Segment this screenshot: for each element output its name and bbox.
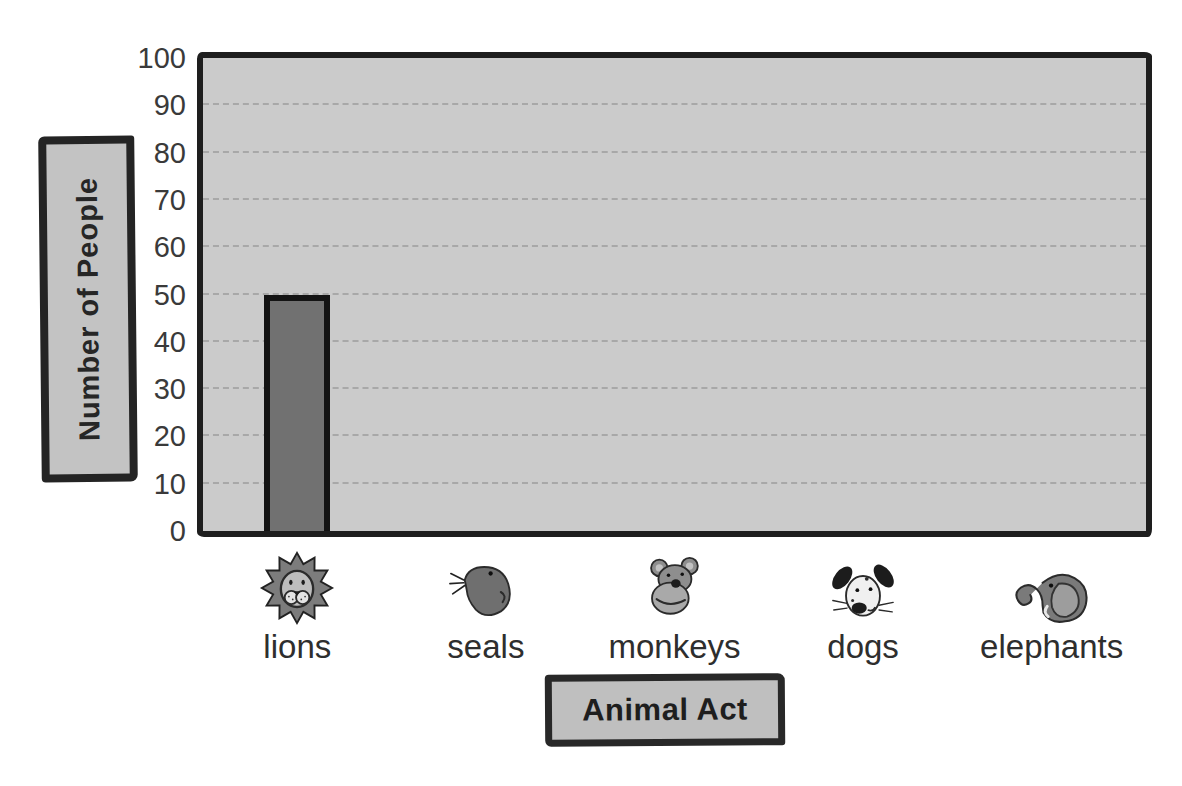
worksheet-bar-chart: Number of People 1009080706050403020100 <box>0 0 1182 786</box>
lion-icon <box>259 548 335 626</box>
gridline-50 <box>203 293 1146 295</box>
gridline-10 <box>203 482 1146 484</box>
category-label: monkeys <box>608 628 740 666</box>
y-axis-tick-label-40: 40 <box>58 322 186 362</box>
category-seals: seals <box>392 548 581 670</box>
y-axis-tick-label-70: 70 <box>58 180 186 220</box>
gridline-60 <box>203 245 1146 247</box>
category-label: seals <box>447 628 524 666</box>
category-lions: lions <box>203 548 392 670</box>
y-axis-tick-label-50: 50 <box>58 275 186 315</box>
y-axis-tick-label-80: 80 <box>58 133 186 173</box>
y-axis-tick-label-10: 10 <box>58 464 186 504</box>
category-dogs: dogs <box>769 548 958 670</box>
gridline-30 <box>203 387 1146 389</box>
plot-area <box>197 52 1152 537</box>
category-elephants: elephants <box>957 548 1146 670</box>
monkey-icon <box>641 548 707 626</box>
y-axis-tick-label-100: 100 <box>58 38 186 78</box>
gridline-40 <box>203 340 1146 342</box>
dog-icon <box>823 548 903 626</box>
y-axis-tick-label-0: 0 <box>58 511 186 551</box>
y-axis-tick-label-90: 90 <box>58 85 186 125</box>
category-label: dogs <box>827 628 899 666</box>
x-axis-title: Animal Act <box>582 691 748 728</box>
category-monkeys: monkeys <box>580 548 769 670</box>
category-label: elephants <box>980 628 1123 666</box>
x-axis-categories: lions seals <box>203 548 1146 670</box>
bar-lions <box>264 295 330 532</box>
gridline-80 <box>203 151 1146 153</box>
gridline-70 <box>203 198 1146 200</box>
gridline-20 <box>203 434 1146 436</box>
y-axis-tick-label-30: 30 <box>58 369 186 409</box>
y-axis-tick-label-20: 20 <box>58 416 186 456</box>
x-axis-title-box: Animal Act <box>545 673 785 747</box>
gridline-90 <box>203 103 1146 105</box>
y-axis-tick-label-60: 60 <box>58 227 186 267</box>
category-label: lions <box>263 628 331 666</box>
elephant-icon <box>1008 548 1096 626</box>
seal-icon <box>449 548 523 626</box>
